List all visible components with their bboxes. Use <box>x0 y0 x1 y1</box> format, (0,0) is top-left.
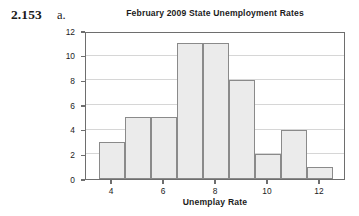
y-tick-label: 12 <box>45 27 75 37</box>
x-tick-mark <box>266 180 267 184</box>
histogram-bar <box>99 142 125 179</box>
y-tick-label: 10 <box>45 51 75 61</box>
y-tick-label: 8 <box>45 76 75 86</box>
y-tick-mark <box>81 105 85 106</box>
chart-title: February 2009 State Unemployment Rates <box>85 8 345 18</box>
x-tick-label: 4 <box>99 186 123 196</box>
x-tick-mark <box>214 180 215 184</box>
y-tick-mark <box>81 155 85 156</box>
x-tick-mark <box>162 180 163 184</box>
x-tick-label: 10 <box>255 186 279 196</box>
histogram-bar <box>177 43 203 179</box>
x-tick-mark <box>318 180 319 184</box>
x-tick-label: 12 <box>307 186 331 196</box>
histogram-bar <box>125 117 151 179</box>
histogram-figure: 2.153 a. February 2009 State Unemploymen… <box>0 0 359 216</box>
histogram-bar <box>151 117 177 179</box>
x-tick-label: 6 <box>151 186 175 196</box>
exercise-part-label: a. <box>57 8 66 23</box>
histogram-bar <box>255 154 281 179</box>
y-tick-label: 0 <box>45 175 75 185</box>
y-tick-mark <box>81 179 85 180</box>
histogram-bar <box>307 167 333 179</box>
plot-inner <box>86 33 344 179</box>
y-tick-label: 4 <box>45 125 75 135</box>
histogram-bar <box>281 130 307 179</box>
x-axis-title: Unemplay Rate <box>85 197 345 207</box>
y-tick-label: 2 <box>45 150 75 160</box>
plot-area <box>85 32 345 180</box>
y-tick-mark <box>81 130 85 131</box>
histogram-bar <box>203 43 229 179</box>
x-tick-label: 8 <box>203 186 227 196</box>
x-tick-mark <box>110 180 111 184</box>
histogram-bar <box>229 80 255 179</box>
y-tick-mark <box>81 56 85 57</box>
exercise-number: 2.153 <box>11 7 42 23</box>
y-tick-mark <box>81 81 85 82</box>
y-tick-mark <box>81 31 85 32</box>
y-tick-label: 6 <box>45 101 75 111</box>
